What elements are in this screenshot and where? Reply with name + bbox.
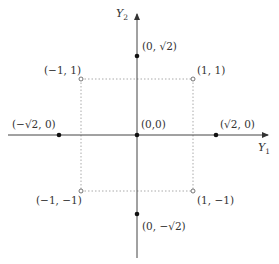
- label-left: (−√2, 0): [12, 118, 56, 130]
- y-axis-label: Y2: [116, 7, 128, 22]
- point-bottom: [135, 212, 140, 217]
- point-origin: [135, 133, 140, 138]
- label-bottom-right: (1, −1): [197, 194, 234, 206]
- point-left: [57, 133, 62, 138]
- point-top-right: [191, 77, 195, 81]
- label-origin: (0,0): [141, 118, 166, 130]
- label-bottom-left: (−1, −1): [36, 194, 82, 206]
- point-right: [214, 133, 219, 138]
- label-bottom: (0, −√2): [142, 220, 186, 232]
- label-top: (0, √2): [142, 40, 177, 52]
- x-axis-label: Y1: [258, 141, 270, 156]
- label-right: (√2, 0): [220, 118, 255, 130]
- point-top: [135, 54, 140, 59]
- label-top-right: (1, 1): [197, 64, 225, 76]
- point-bottom-left: [79, 189, 83, 193]
- coordinate-diagram: Y1 Y2 (0, √2) (0, −√2) (−√2, 0) (√2, 0) …: [0, 0, 279, 264]
- label-top-left: (−1, 1): [44, 64, 81, 76]
- point-bottom-right: [191, 189, 195, 193]
- point-top-left: [79, 77, 83, 81]
